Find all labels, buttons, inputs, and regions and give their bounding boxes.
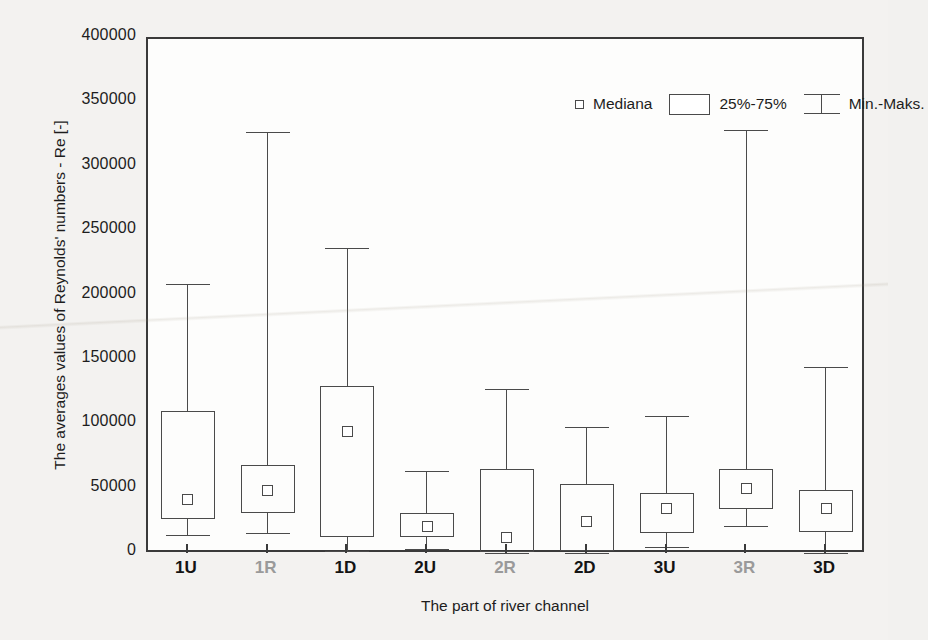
- legend-label-range: Min.-Maks.: [849, 95, 925, 113]
- x-tick-label-1r: 1R: [236, 558, 296, 578]
- median-marker: [182, 494, 193, 505]
- cap-max: [485, 389, 529, 390]
- y-tick-label: 300000: [20, 155, 136, 173]
- x-tick-mark: [585, 544, 587, 553]
- y-tick-label: 0: [20, 541, 136, 559]
- plot-area: Mediana 25%-75% Min.-Maks.: [146, 37, 864, 552]
- median-marker: [501, 532, 512, 543]
- whisker-lower: [187, 519, 188, 536]
- cap-min: [246, 533, 290, 534]
- y-tick-label: 350000: [20, 90, 136, 108]
- cap-max: [405, 471, 449, 472]
- y-tick-label: 200000: [20, 284, 136, 302]
- cap-min: [166, 535, 210, 536]
- x-tick-mark: [744, 544, 746, 553]
- boxplot-1d: [308, 39, 388, 554]
- x-axis-title: The part of river channel: [146, 597, 864, 615]
- cap-min: [724, 526, 768, 527]
- boxplot-2r: [467, 39, 547, 554]
- y-tick-label: 250000: [20, 219, 136, 237]
- whisker-upper: [267, 132, 268, 465]
- whisker-upper: [666, 416, 667, 493]
- whisker-upper: [506, 389, 507, 469]
- median-marker: [821, 503, 832, 514]
- whisker-upper: [586, 427, 587, 484]
- whisker-upper: [426, 471, 427, 513]
- median-marker: [262, 485, 273, 496]
- whisker-bar-icon: [804, 93, 840, 115]
- cap-max: [645, 416, 689, 417]
- x-tick-label-3d: 3D: [794, 558, 854, 578]
- boxplot-1r: [228, 39, 308, 554]
- median-marker: [422, 521, 433, 532]
- legend-label-iqr: 25%-75%: [719, 95, 786, 113]
- whisker-upper: [746, 130, 747, 469]
- cap-max: [166, 284, 210, 285]
- x-tick-label-1d: 1D: [315, 558, 375, 578]
- x-tick-label-2r: 2R: [475, 558, 535, 578]
- y-tick-label: 50000: [20, 477, 136, 495]
- cap-max: [325, 248, 369, 249]
- cap-min: [485, 553, 529, 554]
- boxplot-2u: [387, 39, 467, 554]
- chart-legend: Mediana 25%-75% Min.-Maks.: [575, 91, 928, 117]
- x-tick-label-2d: 2D: [555, 558, 615, 578]
- iqr-box-icon: [669, 94, 710, 115]
- median-marker: [741, 483, 752, 494]
- median-marker: [661, 503, 672, 514]
- x-tick-mark: [266, 544, 268, 553]
- whisker-lower: [267, 513, 268, 534]
- x-tick-mark: [505, 544, 507, 553]
- y-tick-label: 400000: [20, 26, 136, 44]
- x-tick-mark: [665, 544, 667, 553]
- y-tick-label: 100000: [20, 412, 136, 430]
- median-square-icon: [575, 100, 584, 109]
- whisker-upper: [347, 248, 348, 386]
- cap-max: [246, 132, 290, 133]
- cap-max: [724, 130, 768, 131]
- whisker-lower: [746, 509, 747, 526]
- boxplot-1u: [148, 39, 228, 554]
- iqr-box: [320, 386, 374, 537]
- x-tick-label-3u: 3U: [635, 558, 695, 578]
- x-tick-label-3r: 3R: [714, 558, 774, 578]
- x-tick-label-2u: 2U: [395, 558, 455, 578]
- cap-max: [804, 367, 848, 368]
- whisker-upper: [825, 367, 826, 489]
- legend-label-median: Mediana: [593, 95, 652, 113]
- legend-item-range: Min.-Maks.: [804, 93, 928, 115]
- legend-item-median: Mediana: [575, 95, 669, 113]
- x-tick-label-1u: 1U: [156, 558, 216, 578]
- median-marker: [342, 426, 353, 437]
- legend-item-iqr: 25%-75%: [669, 94, 803, 115]
- x-tick-mark: [186, 544, 188, 553]
- y-tick-label: 150000: [20, 348, 136, 366]
- median-marker: [581, 516, 592, 527]
- whisker-upper: [187, 284, 188, 411]
- x-tick-mark: [345, 544, 347, 553]
- x-tick-mark: [824, 544, 826, 553]
- cap-max: [565, 427, 609, 428]
- x-tick-mark: [425, 544, 427, 553]
